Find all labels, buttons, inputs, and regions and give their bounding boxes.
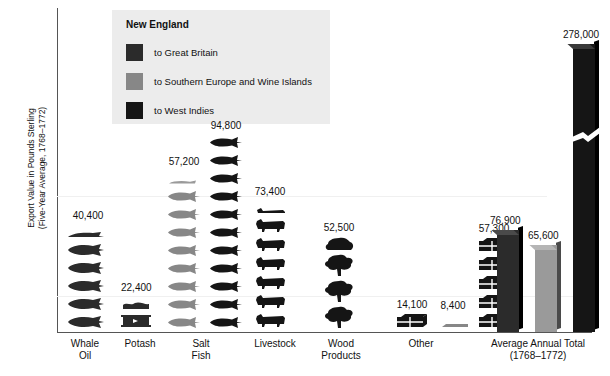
icon-stack-whale-oil <box>66 224 110 332</box>
total-bar-gb-face <box>497 230 519 332</box>
category-label-other-line1: Other <box>390 338 452 350</box>
category-label-salt-fish: Salt Fish <box>172 338 230 362</box>
category-label-whale-oil-line2: Oil <box>56 350 114 362</box>
fish-icon <box>208 188 244 206</box>
value-label-wood-products-wi: 52,500 <box>324 222 355 233</box>
crate-icon-partial <box>437 314 469 332</box>
bar-livestock-west-indies[interactable]: 73,400 <box>253 186 287 332</box>
total-value-label-wi: 278,000 <box>563 29 599 40</box>
barrel-icon-partial <box>121 296 151 314</box>
fish-icon <box>166 206 202 224</box>
tree-icon <box>322 306 356 332</box>
whale-icon <box>66 242 110 260</box>
tree-icon <box>322 280 356 306</box>
value-label-salt-fish-wi: 94,800 <box>211 120 242 131</box>
bar-whale-oil-great-britain[interactable]: 40,400 <box>66 210 110 332</box>
x-axis-line <box>57 332 592 333</box>
category-label-wood-products-line2: Products <box>306 350 376 362</box>
fish-icon <box>166 224 202 242</box>
gridline-faint-upper <box>57 196 547 197</box>
tree-icon-partial <box>322 236 356 254</box>
bar-wood-products-west-indies[interactable]: 52,500 <box>322 222 356 332</box>
fish-icon <box>208 224 244 242</box>
fish-icon <box>166 278 202 296</box>
icon-stack-salt-fish-gray <box>166 170 202 332</box>
value-label-other-gb: 14,100 <box>397 299 428 310</box>
category-label-wood-products: Wood Products <box>306 338 376 362</box>
total-bar-wi-top <box>567 44 595 49</box>
value-label-other-se: 8,400 <box>440 300 465 311</box>
fish-icon <box>208 314 244 332</box>
legend-swatch-west-indies <box>126 102 143 119</box>
fish-icon <box>208 296 244 314</box>
icon-stack-livestock <box>253 200 287 332</box>
icon-stack-wood-products <box>322 236 356 332</box>
fish-icon-partial <box>166 170 202 188</box>
category-group-wood-products: 52,500 <box>322 222 356 332</box>
total-bar-west-indies[interactable] <box>573 44 599 332</box>
cow-icon <box>253 313 287 332</box>
cow-icon <box>253 256 287 275</box>
cow-icon <box>253 237 287 256</box>
total-value-label-se: 65,600 <box>528 230 559 241</box>
total-bar-se-top <box>529 245 557 250</box>
y-axis-label-line1: Export Value in Pounds Sterling <box>26 108 37 227</box>
cow-icon <box>253 275 287 294</box>
y-axis-line <box>57 8 58 332</box>
whale-icon <box>66 278 110 296</box>
category-label-whale-oil-line1: Whale <box>56 338 114 350</box>
fish-icon <box>166 188 202 206</box>
category-group-potash: 22,400 <box>121 282 152 332</box>
legend-title: New England <box>126 19 189 30</box>
total-bar-wi-face <box>573 44 595 332</box>
value-label-salt-fish-se: 57,200 <box>169 156 200 167</box>
category-label-total-line2: (1768–1772) <box>468 350 608 362</box>
category-label-salt-fish-line1: Salt <box>172 338 230 350</box>
whale-icon <box>66 296 110 314</box>
fish-icon <box>166 242 202 260</box>
bar-salt-fish-southern-europe[interactable]: 57,200 <box>166 156 202 332</box>
fish-icon <box>208 260 244 278</box>
fish-icon <box>166 314 202 332</box>
fish-icon <box>208 134 244 152</box>
legend-item-great-britain[interactable]: to Great Britain <box>126 43 218 61</box>
bar-other-great-britain[interactable]: 14,100 <box>396 299 428 332</box>
fish-icon <box>208 152 244 170</box>
legend-label-west-indies: to West Indies <box>154 105 214 116</box>
legend-swatch-southern-europe <box>126 73 143 90</box>
category-group-salt-fish: 57,200 94,800 <box>166 120 244 332</box>
category-label-total-line1: Average Annual Total <box>468 338 608 350</box>
bar-other-southern-europe[interactable]: 8,400 <box>437 300 469 332</box>
fish-icon <box>208 278 244 296</box>
fish-icon <box>208 206 244 224</box>
category-label-other: Other <box>390 338 452 350</box>
icon-stack-other-se <box>437 314 469 332</box>
cow-icon-partial <box>253 200 287 218</box>
fish-icon <box>208 242 244 260</box>
cow-icon <box>253 294 287 313</box>
legend-swatch-great-britain <box>126 44 143 61</box>
legend-label-southern-europe: to Southern Europe and Wine Islands <box>154 76 312 87</box>
category-label-whale-oil: Whale Oil <box>56 338 114 362</box>
category-label-average-annual-total: Average Annual Total (1768–1772) <box>468 338 608 362</box>
total-bar-gb-top <box>491 230 519 235</box>
category-label-salt-fish-line2: Fish <box>172 350 230 362</box>
icon-stack-salt-fish-black <box>208 134 244 332</box>
bar-salt-fish-west-indies[interactable]: 94,800 <box>208 120 244 332</box>
total-value-label-gb: 76,900 <box>490 215 521 226</box>
category-label-potash-line1: Potash <box>112 338 168 350</box>
legend-item-west-indies[interactable]: to West Indies <box>126 101 214 119</box>
total-bar-great-britain[interactable] <box>497 230 523 332</box>
total-bar-southern-europe[interactable] <box>535 245 561 332</box>
pictogram-chart: Export Value in Pounds Sterling (Five-Ye… <box>0 0 610 376</box>
category-group-livestock: 73,400 <box>253 186 287 332</box>
category-label-livestock-line1: Livestock <box>240 338 310 350</box>
category-label-wood-products-line1: Wood <box>306 338 376 350</box>
bar-potash-great-britain[interactable]: 22,400 <box>121 282 152 332</box>
legend-item-southern-europe[interactable]: to Southern Europe and Wine Islands <box>126 72 312 90</box>
icon-stack-potash <box>121 296 151 332</box>
category-group-other: 14,100 8,400 57,300 <box>396 223 510 332</box>
legend-label-great-britain: to Great Britain <box>154 47 218 58</box>
category-label-potash: Potash <box>112 338 168 350</box>
whale-icon-partial <box>66 224 110 242</box>
